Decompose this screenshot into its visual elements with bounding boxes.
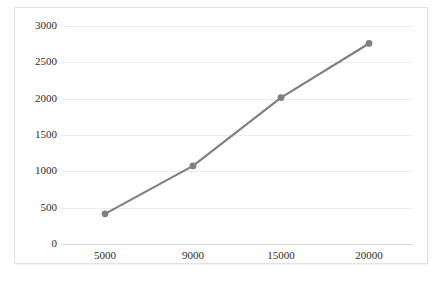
- data-point-marker: [278, 94, 285, 101]
- line-series: [61, 26, 413, 244]
- x-axis-tick-label: 5000: [94, 250, 116, 261]
- x-axis-labels: 500090001500020000: [61, 248, 413, 266]
- x-axis-tick-label: 20000: [355, 250, 383, 261]
- y-axis-tick-label: 2000: [35, 93, 57, 104]
- y-axis-tick-label: 2500: [35, 56, 57, 67]
- y-axis-tick-label: 500: [41, 202, 58, 213]
- y-axis-tick-label: 3000: [35, 20, 57, 31]
- series-line: [105, 43, 369, 213]
- data-point-marker: [190, 162, 197, 169]
- plot-area: [61, 26, 413, 244]
- data-point-marker: [366, 40, 373, 47]
- y-axis-tick-label: 1500: [35, 129, 57, 140]
- gridline-0: [61, 244, 413, 245]
- y-axis-labels: 050010001500200025003000: [15, 26, 57, 244]
- chart-container: 050010001500200025003000 500090001500020…: [14, 7, 428, 264]
- x-axis-tick-label: 9000: [182, 250, 204, 261]
- y-axis-tick-label: 1000: [35, 165, 57, 176]
- data-point-marker: [102, 210, 109, 217]
- y-axis-tick-label: 0: [52, 238, 58, 249]
- x-axis-tick-label: 15000: [267, 250, 295, 261]
